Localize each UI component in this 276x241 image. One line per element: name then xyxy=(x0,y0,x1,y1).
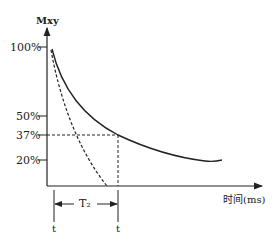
solid-decay-curve xyxy=(52,49,222,161)
y-axis-label: Mxy xyxy=(36,16,59,26)
t2-label: T₂ xyxy=(79,198,91,209)
x-axis-label: 时间(ms) xyxy=(223,195,265,205)
t-start-label: t xyxy=(52,224,56,234)
tick-label-100: 100% xyxy=(10,42,41,53)
tick-label-20: 20% xyxy=(16,155,40,166)
tick-label-37: 37% xyxy=(16,130,40,141)
t-end-label: t xyxy=(116,224,120,234)
tick-label-50: 50% xyxy=(16,111,40,122)
